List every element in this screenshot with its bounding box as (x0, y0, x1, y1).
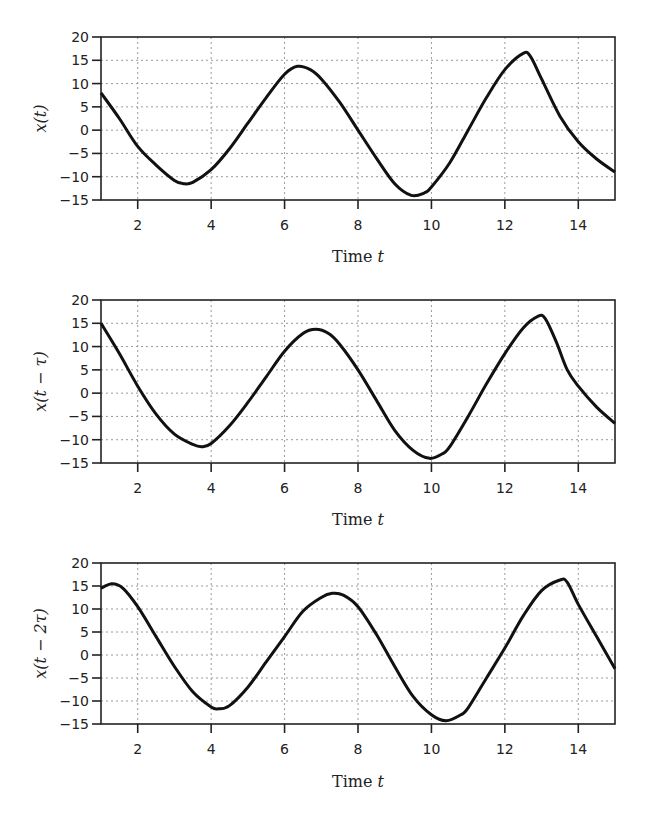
x-tick-label: 12 (496, 217, 514, 233)
y-tick-label: 5 (80, 99, 89, 115)
x-tick-label: 6 (280, 741, 289, 757)
y-tick-label: −10 (59, 432, 89, 448)
y-axis-title: x(t − τ) (31, 351, 50, 411)
y-tick-label: 20 (71, 29, 89, 45)
y-axis-title: x(t − 2τ) (31, 608, 50, 679)
x-tick-label: 12 (496, 741, 514, 757)
chart-panel-1: 246810121420151050−5−10−15Time tx(t) (31, 29, 615, 266)
x-tick-label: 8 (354, 741, 363, 757)
chart-panel-2: 246810121420151050−5−10−15Time tx(t − τ) (31, 292, 615, 529)
y-tick-label: −15 (59, 192, 89, 208)
y-tick-label: −15 (59, 455, 89, 471)
x-tick-label: 10 (423, 480, 441, 496)
y-tick-label: −10 (59, 693, 89, 709)
x-axis-title: Time t (332, 510, 385, 529)
grid (101, 563, 615, 724)
y-tick-label: −15 (59, 716, 89, 732)
y-tick-label: 20 (71, 555, 89, 571)
figure: 246810121420151050−5−10−15Time tx(t)2468… (0, 0, 648, 818)
x-tick-label: 4 (207, 741, 216, 757)
x-axis-title: Time t (332, 247, 385, 266)
x-tick-label: 2 (133, 480, 142, 496)
y-tick-label: 0 (80, 647, 89, 663)
x-tick-label: 14 (569, 217, 587, 233)
y-tick-label: −10 (59, 169, 89, 185)
x-tick-label: 12 (496, 480, 514, 496)
x-tick-label: 2 (133, 217, 142, 233)
x-axis-title: Time t (332, 772, 385, 791)
x-tick-label: 14 (569, 480, 587, 496)
x-tick-label: 8 (354, 480, 363, 496)
y-tick-label: 0 (80, 122, 89, 138)
y-tick-label: −5 (68, 408, 89, 424)
x-tick-label: 4 (207, 217, 216, 233)
y-tick-label: 15 (71, 52, 89, 68)
x-tick-label: 8 (354, 217, 363, 233)
y-tick-label: 10 (71, 76, 89, 92)
y-tick-label: 20 (71, 292, 89, 308)
y-tick-label: −5 (68, 145, 89, 161)
x-tick-label: 4 (207, 480, 216, 496)
grid (101, 37, 615, 200)
y-tick-label: 5 (80, 362, 89, 378)
x-tick-label: 2 (133, 741, 142, 757)
y-tick-label: 15 (71, 578, 89, 594)
x-tick-label: 14 (569, 741, 587, 757)
y-tick-label: 10 (71, 339, 89, 355)
chart-panel-3: 246810121420151050−5−10−15Time tx(t − 2τ… (31, 555, 615, 791)
x-tick-label: 10 (423, 217, 441, 233)
y-tick-label: −5 (68, 670, 89, 686)
x-tick-label: 6 (280, 480, 289, 496)
y-tick-label: 5 (80, 624, 89, 640)
x-tick-label: 10 (423, 741, 441, 757)
y-tick-label: 15 (71, 315, 89, 331)
x-tick-label: 6 (280, 217, 289, 233)
y-tick-label: 0 (80, 385, 89, 401)
y-tick-label: 10 (71, 601, 89, 617)
y-axis-title: x(t) (31, 105, 50, 133)
